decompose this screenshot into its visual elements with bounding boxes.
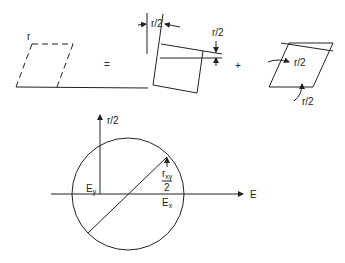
arrow-icon [268,60,289,62]
square-top-label: r/2 [151,18,163,29]
shear-strain-num: rxy [162,168,173,181]
plus-sign: + [235,60,241,71]
sheared-element [16,44,148,88]
mohr-circle [51,115,243,250]
rhombus-upper-label: r/2 [294,57,306,68]
shear-angle-label: r [27,31,31,42]
strain-diagram: r = r/2 r/2 + r/2 r/2 r/2 E Ey Ex r [0,0,345,263]
equals-sign: = [104,59,110,70]
e-axis-label: E [250,189,257,200]
arrow-icon [138,24,146,25]
ex-label: Ex [162,197,173,209]
rhombus-lower-label: r/2 [302,96,314,107]
sheared-rhombus [268,43,333,101]
shear-strain-den: 2 [164,182,170,193]
square-right-label: r/2 [212,27,224,38]
shear-axis-label: r/2 [107,115,119,126]
arrow-icon [165,24,180,27]
